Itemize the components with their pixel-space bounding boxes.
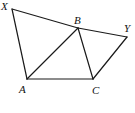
segment-cy <box>93 37 127 79</box>
segment-ab <box>27 28 78 79</box>
label-a: A <box>18 83 26 95</box>
geometry-diagram: X B Y A C <box>0 0 135 113</box>
label-x: X <box>0 0 9 12</box>
segment-xb <box>12 9 78 28</box>
segment-xa <box>12 9 27 79</box>
label-y: Y <box>124 22 132 34</box>
label-c: C <box>92 84 100 96</box>
label-b: B <box>74 14 81 26</box>
segment-by <box>78 28 127 37</box>
segment-bc <box>78 28 93 79</box>
